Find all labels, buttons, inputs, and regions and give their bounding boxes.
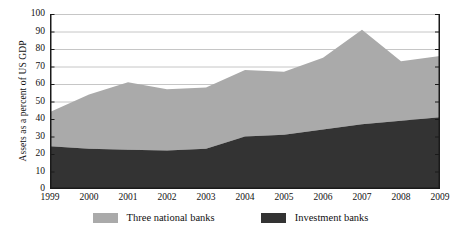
x-axis-tick-labels: 1999200020012002200320042005200620072008…	[0, 192, 461, 206]
x-axis-tick-2000: 2000	[69, 192, 109, 203]
plot-area	[50, 14, 440, 189]
x-axis-tick-2006: 2006	[303, 192, 343, 203]
x-axis-tick-1999: 1999	[30, 192, 70, 203]
legend-label-three-national-banks: Three national banks	[127, 212, 215, 223]
y-axis-tick-70: 70	[20, 62, 45, 72]
x-axis-tick-2001: 2001	[108, 192, 148, 203]
y-axis-tick-20: 20	[20, 149, 45, 159]
y-axis-tick-50: 50	[20, 97, 45, 107]
x-axis-tick-2009: 2009	[420, 192, 460, 203]
x-axis-tick-2004: 2004	[225, 192, 265, 203]
y-axis-tick-90: 90	[20, 27, 45, 37]
stacked-area-chart: Assets as a percent of US GDP 0102030405…	[0, 0, 461, 237]
y-axis-tick-30: 30	[20, 132, 45, 142]
legend-swatch-three-national-banks	[93, 213, 118, 223]
legend-swatch-investment-banks	[261, 213, 286, 223]
legend-entry-investment-banks: Investment banks	[261, 212, 369, 223]
plot-svg	[50, 14, 440, 189]
legend-label-investment-banks: Investment banks	[295, 212, 369, 223]
x-axis-tick-2005: 2005	[264, 192, 304, 203]
chart-legend: Three national banks Investment banks	[0, 212, 461, 223]
x-axis-tick-2007: 2007	[342, 192, 382, 203]
y-axis-tick-80: 80	[20, 44, 45, 54]
y-axis-tick-60: 60	[20, 79, 45, 89]
x-axis-tick-2003: 2003	[186, 192, 226, 203]
y-axis-tick-10: 10	[20, 167, 45, 177]
x-axis-tick-2002: 2002	[147, 192, 187, 203]
y-axis-tick-100: 100	[20, 9, 45, 19]
y-axis-tick-40: 40	[20, 114, 45, 124]
x-axis-tick-2008: 2008	[381, 192, 421, 203]
legend-entry-three-national-banks: Three national banks	[93, 212, 215, 223]
